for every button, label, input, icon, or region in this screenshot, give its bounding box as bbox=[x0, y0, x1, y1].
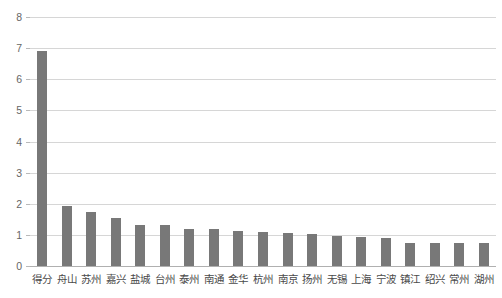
bar bbox=[454, 243, 464, 266]
y-axis-tick-label: 4 bbox=[16, 137, 22, 148]
bar bbox=[405, 243, 415, 266]
bar bbox=[356, 237, 366, 266]
y-axis-tick-label: 3 bbox=[16, 168, 22, 179]
y-axis-tick-label: 8 bbox=[16, 12, 22, 23]
y-axis-tick-label: 5 bbox=[16, 105, 22, 116]
y-axis-tick-labels: 012345678 bbox=[0, 17, 26, 266]
bar bbox=[430, 243, 440, 266]
bar bbox=[135, 225, 145, 266]
bar bbox=[37, 51, 47, 266]
x-axis-tick-labels: 得分舟山苏州嘉兴盐城台州泰州南通金华杭州南京扬州无锡上海宁波镇江绍兴常州湖州 bbox=[30, 272, 496, 294]
y-axis-tick-label: 1 bbox=[16, 230, 22, 241]
bar bbox=[62, 206, 72, 266]
bar bbox=[307, 234, 317, 266]
bars-layer bbox=[30, 17, 496, 266]
bar bbox=[86, 212, 96, 266]
y-axis-tick-label: 0 bbox=[16, 261, 22, 272]
bar bbox=[381, 238, 391, 266]
bar bbox=[209, 229, 219, 266]
bar bbox=[258, 232, 268, 266]
y-axis-tick-label: 7 bbox=[16, 43, 22, 54]
y-axis-tick-label: 6 bbox=[16, 74, 22, 85]
bar bbox=[479, 243, 489, 266]
x-axis-line bbox=[30, 266, 496, 267]
y-axis-tick bbox=[26, 266, 30, 267]
bar bbox=[111, 218, 121, 266]
bar bbox=[283, 233, 293, 266]
x-axis-tick-label: 湖州 bbox=[469, 272, 499, 286]
bar bbox=[332, 236, 342, 267]
bar bbox=[233, 231, 243, 266]
bar bbox=[160, 225, 170, 266]
bar-chart: 012345678 得分舟山苏州嘉兴盐城台州泰州南通金华杭州南京扬州无锡上海宁波… bbox=[0, 0, 502, 298]
bar bbox=[184, 229, 194, 266]
y-axis-tick-label: 2 bbox=[16, 199, 22, 210]
